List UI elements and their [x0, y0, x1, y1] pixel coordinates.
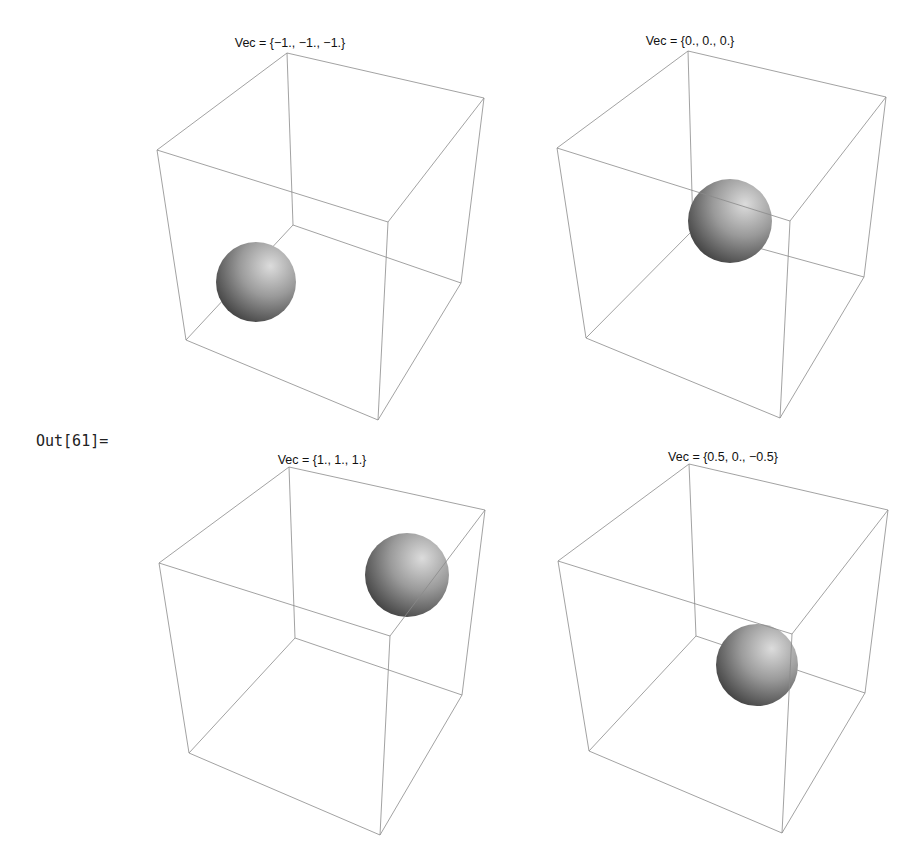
panel-1-front-edges	[157, 53, 484, 420]
panel-4-sphere	[716, 624, 798, 706]
panel-2-sphere	[688, 179, 772, 263]
graphics-grid	[0, 0, 919, 864]
panel-3-front-edges	[159, 467, 485, 835]
panel-3-box[interactable]	[189, 467, 485, 753]
panel-1-sphere	[216, 242, 296, 322]
